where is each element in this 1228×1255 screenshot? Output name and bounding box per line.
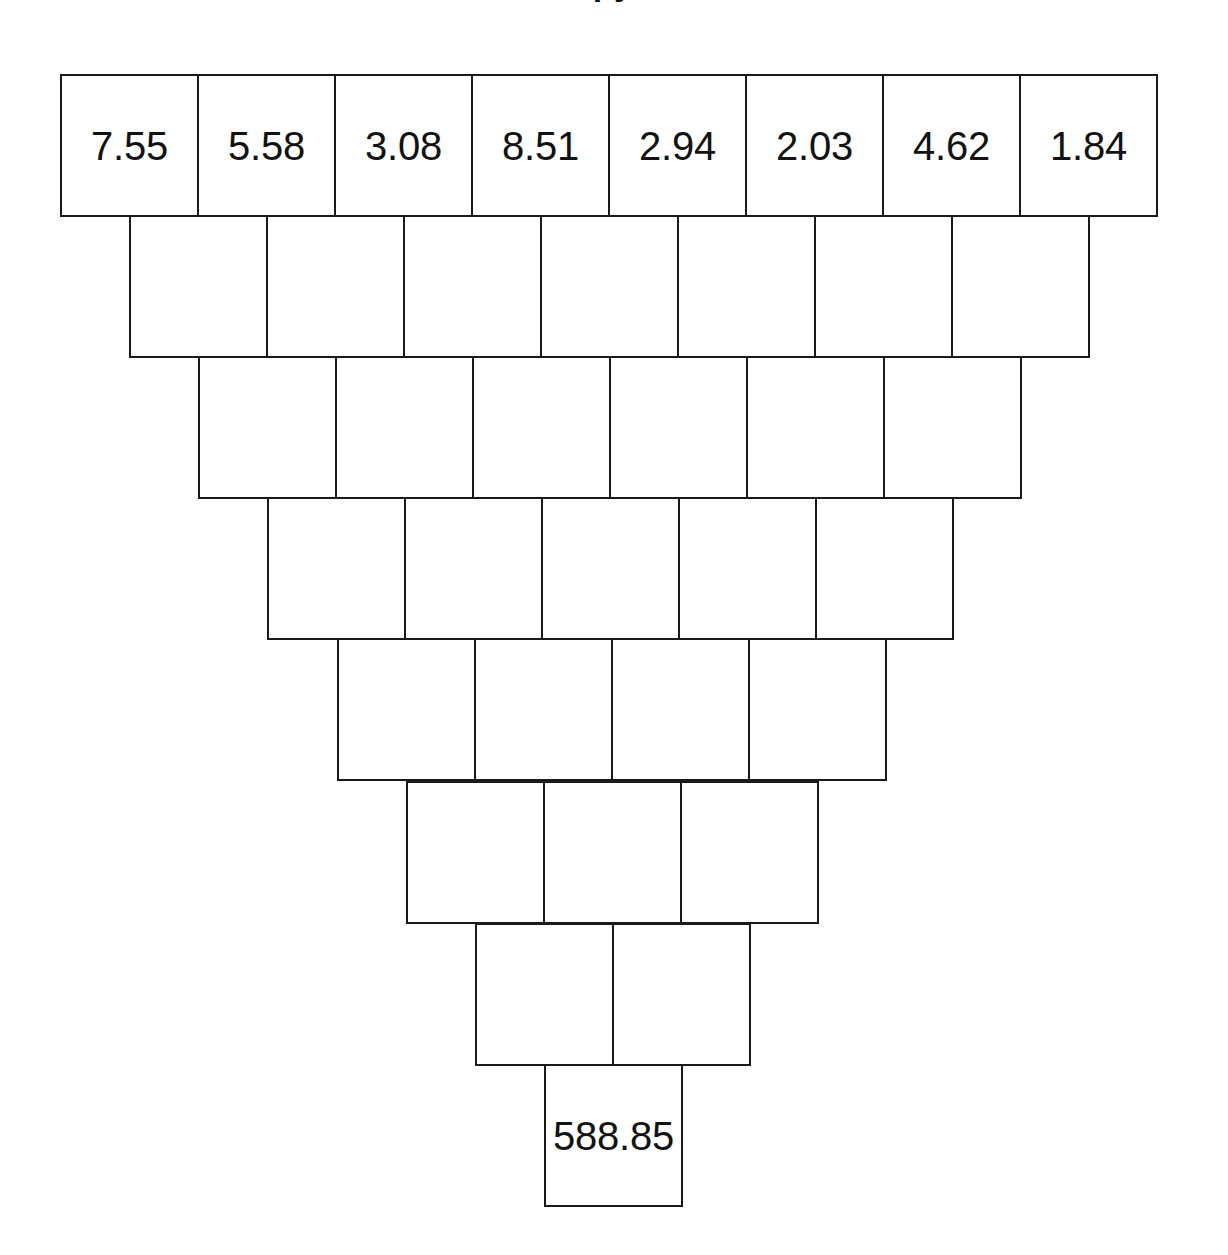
pyramid-cell-blank[interactable] [883,356,1022,499]
pyramid-cell-blank[interactable] [198,356,337,499]
pyramid-cell-blank[interactable] [406,781,545,924]
pyramid-cell-value: 1.84 [1050,126,1127,166]
pyramid-cell-blank[interactable] [267,497,406,640]
pyramid-cell-blank[interactable] [540,215,679,358]
pyramid-cell-blank[interactable] [746,356,885,499]
pyramid-cell-blank[interactable] [680,781,819,924]
pyramid-cell-filled[interactable]: 8.51 [471,74,610,217]
pyramid-row: 7.555.583.088.512.942.034.621.84 [60,74,1158,217]
pyramid-row [129,215,1090,358]
pyramid-cell-blank[interactable] [814,215,953,358]
pyramid-cell-value: 8.51 [502,126,579,166]
pyramid-cell-blank[interactable] [815,497,954,640]
pyramid-row [267,497,954,640]
pyramid-cell-filled[interactable]: 3.08 [334,74,473,217]
pyramid-row [337,638,887,781]
pyramid-row: 588.85 [544,1064,683,1207]
pyramid-cell-blank[interactable] [678,497,817,640]
pyramid-cell-blank[interactable] [541,497,680,640]
pyramid-cell-blank[interactable] [404,497,543,640]
pyramid-cell-filled[interactable]: 4.62 [882,74,1021,217]
pyramid-cell-blank[interactable] [337,638,476,781]
pyramid-cell-blank[interactable] [748,638,887,781]
pyramid-cell-blank[interactable] [129,215,268,358]
pyramid-cell-blank[interactable] [335,356,474,499]
pyramid-cell-value: 2.03 [776,126,853,166]
pyramid-cell-filled[interactable]: 1.84 [1019,74,1158,217]
pyramid-row [198,356,1022,499]
pyramid-cell-value: 3.08 [365,126,442,166]
pyramid-cell-value: 2.94 [639,126,716,166]
pyramid-cell-blank[interactable] [474,638,613,781]
pyramid-cell-blank[interactable] [472,356,611,499]
pyramid-cell-value: 588.85 [553,1116,674,1156]
pyramid-cell-filled[interactable]: 2.03 [745,74,884,217]
pyramid-cell-blank[interactable] [612,923,751,1066]
pyramid-cell-filled[interactable]: 5.58 [197,74,336,217]
pyramid-row [475,923,751,1066]
pyramid-cell-value: 4.62 [913,126,990,166]
pyramid-cell-blank[interactable] [266,215,405,358]
pyramid-cell-value: 5.58 [228,126,305,166]
pyramid-cell-blank[interactable] [677,215,816,358]
pyramid-cell-filled[interactable]: 588.85 [544,1064,683,1207]
pyramid-cell-blank[interactable] [951,215,1090,358]
pyramid-cell-filled[interactable]: 2.94 [608,74,747,217]
pyramid-cell-blank[interactable] [475,923,614,1066]
pyramid-cell-blank[interactable] [609,356,748,499]
pyramid-cell-blank[interactable] [543,781,682,924]
pyramid-row [406,781,819,924]
worksheet-page: Zahlenpyramide 7.555.583.088.512.942.034… [0,0,1228,1255]
pyramid-cell-value: 7.55 [91,126,168,166]
number-pyramid: 7.555.583.088.512.942.034.621.84588.85 [0,0,1228,1255]
pyramid-cell-blank[interactable] [403,215,542,358]
pyramid-cell-filled[interactable]: 7.55 [60,74,199,217]
pyramid-cell-blank[interactable] [611,638,750,781]
